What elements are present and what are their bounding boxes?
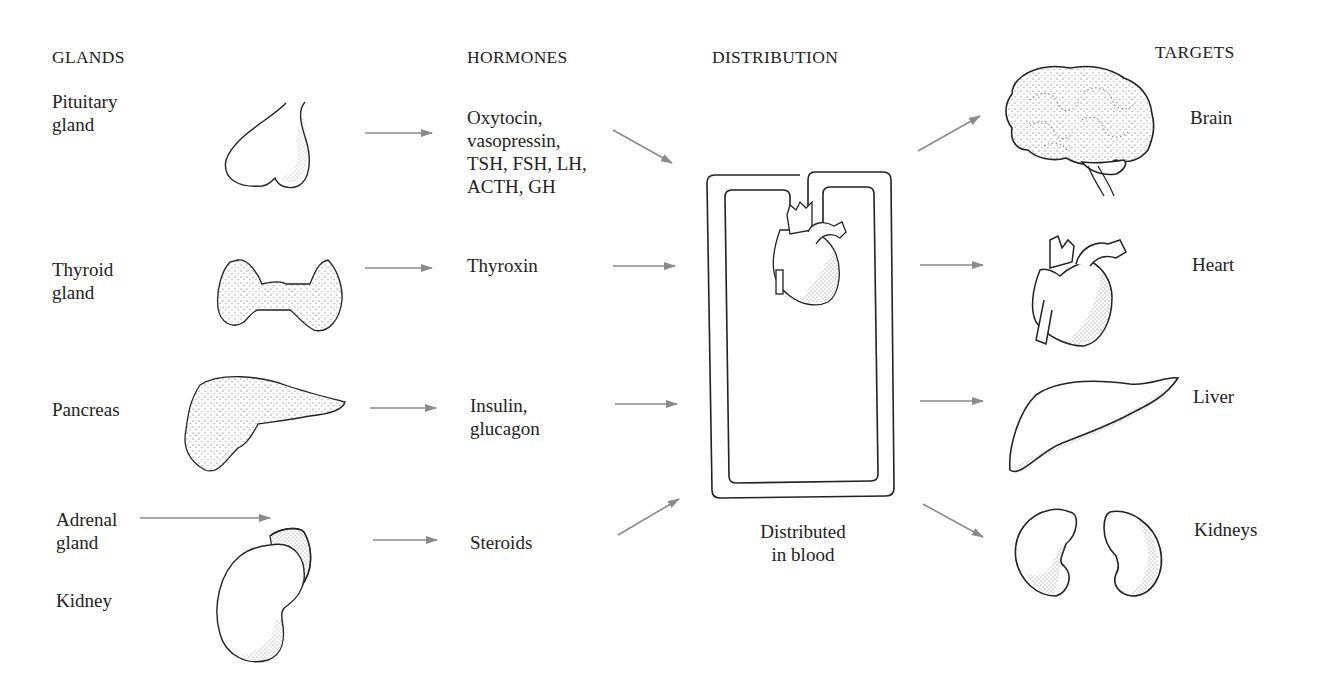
thyroid-gland-icon	[218, 260, 342, 331]
arrow-to-brain	[918, 116, 980, 151]
circulatory-loop-heart-icon	[707, 172, 894, 498]
arrow-to-kidneys	[923, 504, 983, 537]
heart-icon	[1033, 236, 1126, 346]
arrow-pituitary-hormones	[613, 130, 672, 163]
arrows-hormone-to-blood	[613, 130, 679, 535]
pancreas-icon	[185, 377, 345, 471]
arrows-gland-to-hormone	[140, 133, 437, 540]
kidneys-icon	[1015, 509, 1161, 596]
loop-heart-icon	[773, 202, 846, 305]
pituitary-gland-icon	[225, 102, 309, 188]
arrow-steroids	[618, 499, 679, 535]
adrenal-kidney-icon	[217, 529, 311, 662]
brain-icon	[1006, 66, 1154, 196]
liver-icon	[1010, 378, 1178, 472]
arrows-blood-to-targets	[918, 116, 983, 537]
